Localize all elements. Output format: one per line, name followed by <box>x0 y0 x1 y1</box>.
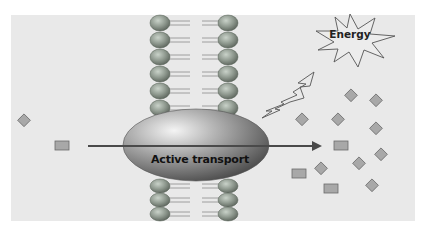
molecule-diamond <box>18 114 31 127</box>
energy-starburst <box>316 14 395 67</box>
lightning-bolt-icon <box>262 72 314 118</box>
molecule-diamond <box>375 148 388 161</box>
molecules-inside <box>292 89 387 193</box>
molecule-diamond <box>315 162 328 175</box>
molecule-diamond <box>366 179 379 192</box>
energy-label: Energy <box>320 28 380 40</box>
molecule-diamond <box>370 122 383 135</box>
molecules-outside <box>18 114 69 150</box>
molecule-diamond <box>370 94 383 107</box>
active-transport-label: Active transport <box>140 153 260 166</box>
molecule-diamond <box>296 113 309 126</box>
molecule-diamond <box>332 113 345 126</box>
molecule-rectangle <box>324 184 338 193</box>
molecule-rectangle <box>334 141 348 150</box>
molecule-diamond <box>345 89 358 102</box>
molecule-diamond <box>353 157 366 170</box>
molecule-rectangle <box>292 169 306 178</box>
molecule-rectangle <box>55 141 69 150</box>
